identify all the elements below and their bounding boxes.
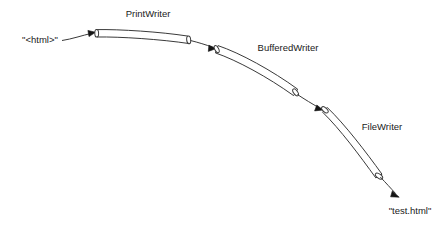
pipe-printwriter-outlet-cap — [186, 36, 191, 44]
source-label: "<html>" — [22, 34, 58, 45]
destination-label: "test.html" — [389, 205, 432, 216]
pipe-printwriter-inlet-cap — [95, 29, 99, 37]
pipe-filewriter-inlet-cap — [321, 106, 330, 114]
pipe-bufferedwriter-body — [215, 46, 297, 96]
connector-printwriter-to-bufferedwriter — [191, 41, 217, 52]
pipe-printwriter[interactable] — [95, 29, 191, 44]
diagram-canvas: PrintWriter BufferedWriter FileWriter — [0, 0, 448, 227]
connector-filewriter-to-destination — [380, 177, 399, 197]
arrowhead-into-destination — [391, 191, 400, 197]
diagram-svg: PrintWriter BufferedWriter FileWriter — [0, 0, 448, 227]
pipe-bufferedwriter[interactable] — [213, 45, 299, 97]
pipe-printwriter-body — [97, 30, 190, 44]
pipe-label-filewriter: FileWriter — [362, 121, 402, 132]
pipe-filewriter[interactable] — [321, 106, 384, 181]
pipe-label-bufferedwriter: BufferedWriter — [258, 42, 319, 53]
connector-bufferedwriter-to-filewriter — [297, 95, 323, 111]
connector-source-to-printwriter — [62, 30, 96, 40]
pipe-label-printwriter: PrintWriter — [126, 8, 171, 19]
pipe-filewriter-body — [323, 107, 382, 177]
connector-line-fw-dest — [380, 177, 395, 194]
connector-line-source — [62, 33, 92, 40]
